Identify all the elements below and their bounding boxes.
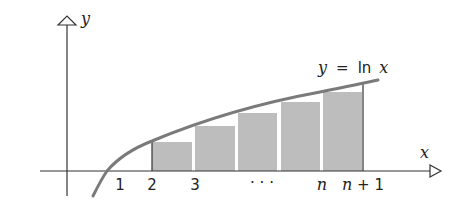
tick-3: 3: [190, 176, 200, 194]
bar-1: [152, 142, 192, 171]
bar-4: [281, 102, 320, 171]
ln-area-diagram: y x y = ln x 1 2 3 · · · n n + 1: [0, 0, 450, 202]
tick-ellipsis: · · ·: [250, 174, 274, 192]
tick-2: 2: [147, 176, 157, 194]
tick-n-plus-1: n + 1: [342, 175, 384, 194]
x-axis-arrow-icon: [430, 165, 441, 177]
y-axis-label: y: [80, 9, 91, 28]
tick-1: 1: [115, 176, 125, 194]
x-axis-label: x: [420, 143, 429, 162]
y-axis-arrow-icon: [58, 16, 76, 25]
tick-n: n: [317, 175, 327, 194]
bar-5: [323, 92, 362, 171]
curve-label: y = ln x: [317, 58, 388, 77]
bar-2: [195, 126, 235, 171]
rectangles: [152, 92, 362, 171]
bar-3: [238, 113, 277, 171]
